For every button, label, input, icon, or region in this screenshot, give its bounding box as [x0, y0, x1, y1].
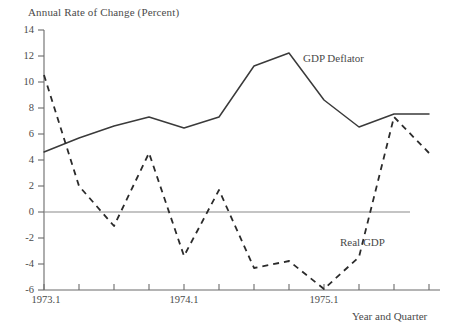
- y-tick-label-0: 0: [8, 207, 34, 218]
- x-tick-label-1975-1: 1975.1: [310, 295, 339, 306]
- y-tick-label-2: 2: [8, 181, 34, 192]
- series-line-gdp-deflator: [44, 53, 429, 152]
- y-tick-label-4: 4: [8, 155, 34, 166]
- series-annotation-real-gdp: Real GDP: [340, 236, 385, 248]
- y-tick-label-neg2: -2: [8, 233, 34, 244]
- x-axis-title: Year and Quarter: [352, 310, 427, 322]
- y-tick-label-6: 6: [8, 129, 34, 140]
- y-tick-label-neg6: -6: [8, 285, 34, 296]
- y-tick-label-14: 14: [8, 25, 34, 36]
- y-axis-ticks: [38, 30, 44, 290]
- y-tick-label-8: 8: [8, 103, 34, 114]
- x-tick-label-1974-1: 1974.1: [170, 295, 199, 306]
- y-tick-label-10: 10: [8, 77, 34, 88]
- x-axis-ticks: [44, 284, 429, 290]
- y-tick-label-neg4: -4: [8, 259, 34, 270]
- series-annotation-gdp-deflator: GDP Deflator: [303, 52, 364, 64]
- y-tick-label-12: 12: [8, 51, 34, 62]
- x-tick-label-1973-1: 1973.1: [32, 295, 61, 306]
- chart-plot-area: [0, 0, 450, 333]
- chart-container: Annual Rate of Change (Percent): [0, 0, 450, 333]
- series-line-real-gdp: [44, 75, 429, 289]
